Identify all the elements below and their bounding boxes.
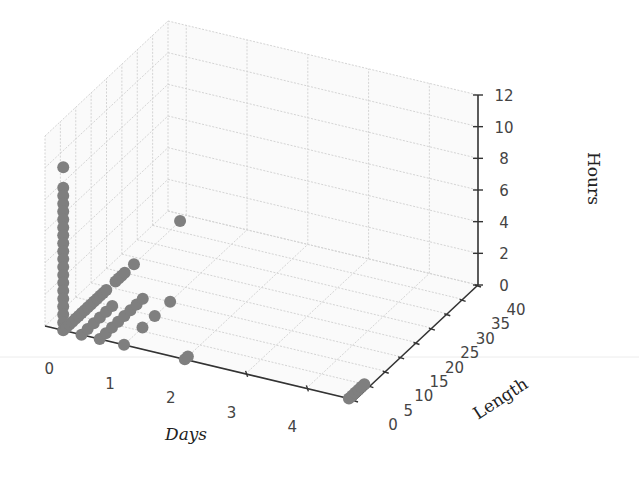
length-tick-label: 40 <box>506 301 525 319</box>
days-tick-label: 0 <box>44 360 54 378</box>
scatter-3d-chart: 01234 0510152025303540 024681012 Days Le… <box>0 0 639 483</box>
hours-tick-label: 2 <box>499 245 509 263</box>
data-point <box>57 161 69 173</box>
data-point <box>106 300 118 312</box>
hours-tick-label: 8 <box>499 150 509 168</box>
data-point <box>164 296 176 308</box>
data-point <box>174 215 186 227</box>
days-tick-label: 4 <box>288 418 298 436</box>
days-tick-label: 1 <box>105 375 115 393</box>
data-point <box>137 293 149 305</box>
data-point <box>136 322 148 334</box>
hours-tick-label: 0 <box>499 277 509 295</box>
hours-tick-label: 4 <box>499 214 509 232</box>
hours-tick-label: 10 <box>494 119 513 137</box>
axis-panes <box>45 21 478 400</box>
hours-tick-labels: 024681012 <box>494 87 513 295</box>
data-point <box>128 258 140 270</box>
days-tick-label: 2 <box>166 389 176 407</box>
data-point <box>358 378 370 390</box>
length-tick-label: 5 <box>404 402 414 420</box>
length-axis-label: Length <box>469 373 531 423</box>
length-tick-label: 0 <box>388 416 398 434</box>
data-point <box>118 339 130 351</box>
data-point <box>119 267 131 279</box>
hours-tick-label: 12 <box>494 87 513 105</box>
days-axis-label: Days <box>164 424 207 444</box>
hours-tick-label: 6 <box>499 182 509 200</box>
data-point <box>100 284 112 296</box>
hours-axis-label: Hours <box>584 152 604 205</box>
days-tick-label: 3 <box>227 404 237 422</box>
data-point <box>182 350 194 362</box>
data-point <box>149 310 161 322</box>
